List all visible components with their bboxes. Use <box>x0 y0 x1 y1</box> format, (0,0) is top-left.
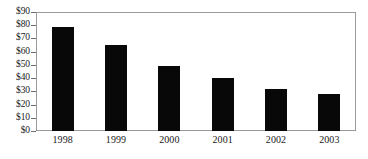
y-tick-mark <box>31 91 36 92</box>
y-tick-label: $70 <box>16 33 30 43</box>
x-tick-label: 2002 <box>251 134 301 146</box>
y-tick-mark <box>31 131 36 132</box>
bar-chart: $90$80$70$60$50$40$30$20$10$0 1998199920… <box>0 0 368 159</box>
y-tick-label: $40 <box>16 73 30 83</box>
x-tick-label: 2003 <box>304 134 354 146</box>
y-tick-mark <box>31 78 36 79</box>
y-tick-label: $30 <box>16 86 30 96</box>
x-tick-label: 2001 <box>198 134 248 146</box>
bar <box>52 27 74 131</box>
bar <box>212 78 234 131</box>
bar <box>158 66 180 131</box>
y-tick-mark <box>31 38 36 39</box>
y-tick-mark <box>31 12 36 13</box>
y-tick-mark <box>31 25 36 26</box>
y-tick-mark <box>31 118 36 119</box>
x-axis: 199819992000200120022003 <box>36 134 356 152</box>
y-tick-mark <box>31 52 36 53</box>
x-tick-label: 2000 <box>144 134 194 146</box>
y-tick-label: $10 <box>16 113 30 123</box>
y-tick-mark <box>31 105 36 106</box>
y-tick-label: $80 <box>16 20 30 30</box>
y-axis: $90$80$70$60$50$40$30$20$10$0 <box>0 0 33 159</box>
y-tick-label: $90 <box>16 7 30 17</box>
bar <box>318 94 340 131</box>
x-tick-label: 1998 <box>38 134 88 146</box>
y-tick-label: $60 <box>16 47 30 57</box>
bars-group <box>36 12 356 131</box>
y-tick-label: $50 <box>16 60 30 70</box>
y-tick-mark <box>31 65 36 66</box>
y-tick-label: $20 <box>16 100 30 110</box>
bar <box>105 45 127 131</box>
x-tick-label: 1999 <box>91 134 141 146</box>
bar <box>265 89 287 131</box>
y-tick-label: $0 <box>21 126 30 136</box>
